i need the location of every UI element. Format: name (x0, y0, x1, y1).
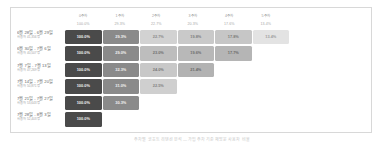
column-header-week-1: 1주차 (102, 12, 139, 20)
chart-panel-inner: 0주차1주차2주차3주차4주차5주차100.0%29.3%22.7%20.3%1… (17, 12, 367, 129)
retention-cell[interactable]: 30.3% (103, 96, 140, 111)
column-header-week-5: 5주차 (248, 12, 285, 20)
cohort-row[interactable]: 7월 7일 - 7월 13일사용자 47,269명100.0%32.3%24.0… (17, 63, 367, 80)
retention-cell[interactable]: 100.0% (65, 63, 102, 78)
summary-value-week-1: 29.3% (102, 20, 139, 28)
cell-group: 100.0% (65, 112, 367, 129)
column-header-week-4: 4주차 (211, 12, 248, 20)
retention-cell[interactable]: 100.0% (65, 112, 102, 127)
cohort-label-cell: 7월 7일 - 7월 13일사용자 47,269명 (17, 63, 65, 80)
cohort-label-cell: 7월 28일 - 8월 3일사용자 52,403명 (17, 112, 65, 129)
summary-value-week-3: 20.3% (175, 20, 212, 28)
summary-value-week-4: 17.6% (211, 20, 248, 28)
cell-group: 100.0%29.3%22.7%20.3%17.6%13.4% (65, 20, 367, 28)
column-header-week-3: 3주차 (175, 12, 212, 20)
cohort-row[interactable]: 7월 21일 - 7월 27일사용자 53,643명100.0%30.3% (17, 96, 367, 113)
retention-cell[interactable]: 23.0% (140, 46, 177, 61)
column-header-row: 0주차1주차2주차3주차4주차5주차 (17, 12, 367, 20)
retention-cell[interactable]: 19.6% (178, 46, 215, 61)
cohort-label-cell: 6월 28일 - 6월 29일사용자 41,356명 (17, 30, 65, 47)
retention-cell[interactable]: 100.0% (65, 96, 102, 111)
retention-cell[interactable]: 32.3% (103, 63, 140, 78)
cell-group: 100.0%32.3%24.0%21.4% (65, 63, 367, 80)
retention-cell[interactable]: 22.7% (140, 30, 177, 45)
retention-cell[interactable]: 29.3% (103, 30, 140, 45)
cohort-label-cell: 7월 21일 - 7월 27일사용자 53,643명 (17, 96, 65, 113)
cell-group: 0주차1주차2주차3주차4주차5주차 (65, 12, 367, 20)
chart-caption: 주차별 코호트 리텐션 분석 — 가입 주차 기준 재방문 사용자 비율 (0, 137, 384, 143)
cell-group: 100.0%29.0%23.0%19.6%17.7% (65, 46, 367, 63)
cohort-retention-grid: 0주차1주차2주차3주차4주차5주차100.0%29.3%22.7%20.3%1… (17, 12, 367, 129)
cohort-label-cell: 7월 14일 - 7월 20일사용자 50,871명 (17, 79, 65, 96)
cohort-user-count: 사용자 47,269명 (17, 68, 63, 72)
header-corner (17, 12, 65, 20)
cell-group: 100.0%31.0%22.5% (65, 79, 367, 96)
retention-cell[interactable]: 29.0% (103, 46, 140, 61)
summary-label (17, 20, 65, 28)
retention-cell[interactable]: 19.8% (178, 30, 215, 45)
cell-group: 100.0%29.3%22.7%19.8%17.8%13.4% (65, 30, 367, 47)
retention-cell[interactable]: 17.7% (215, 46, 252, 61)
cell-group: 100.0%30.3% (65, 96, 367, 113)
summary-value-week-5: 13.4% (248, 20, 285, 28)
chart-root: 0주차1주차2주차3주차4주차5주차100.0%29.3%22.7%20.3%1… (0, 0, 384, 152)
column-header-week-0: 0주차 (65, 12, 102, 20)
cohort-user-count: 사용자 40,507명 (17, 51, 63, 55)
cohort-label-cell: 6월 30일 - 7월 6일사용자 40,507명 (17, 46, 65, 63)
retention-cell[interactable]: 24.0% (140, 63, 177, 78)
retention-cell[interactable]: 100.0% (65, 79, 102, 94)
column-header-week-2: 2주차 (138, 12, 175, 20)
retention-cell[interactable]: 13.4% (253, 30, 290, 45)
cohort-row[interactable]: 7월 14일 - 7월 20일사용자 50,871명100.0%31.0%22.… (17, 79, 367, 96)
cohort-row[interactable]: 7월 28일 - 8월 3일사용자 52,403명100.0% (17, 112, 367, 129)
retention-cell[interactable]: 21.4% (178, 63, 215, 78)
chart-panel: 0주차1주차2주차3주차4주차5주차100.0%29.3%22.7%20.3%1… (10, 7, 372, 133)
retention-cell[interactable]: 100.0% (65, 46, 102, 61)
summary-value-week-0: 100.0% (65, 20, 102, 28)
cohort-user-count: 사용자 50,871명 (17, 84, 63, 88)
cohort-user-count: 사용자 53,643명 (17, 101, 63, 105)
retention-cell[interactable]: 31.0% (103, 79, 140, 94)
summary-row: 100.0%29.3%22.7%20.3%17.6%13.4% (17, 20, 367, 28)
retention-cell[interactable]: 17.8% (215, 30, 252, 45)
cohort-row[interactable]: 6월 30일 - 7월 6일사용자 40,507명100.0%29.0%23.0… (17, 46, 367, 63)
summary-value-week-2: 22.7% (138, 20, 175, 28)
cohort-row[interactable]: 6월 28일 - 6월 29일사용자 41,356명100.0%29.3%22.… (17, 30, 367, 47)
cohort-user-count: 사용자 52,403명 (17, 117, 63, 121)
retention-cell[interactable]: 22.5% (140, 79, 177, 94)
cohort-user-count: 사용자 41,356명 (17, 35, 63, 39)
retention-cell[interactable]: 100.0% (65, 30, 102, 45)
